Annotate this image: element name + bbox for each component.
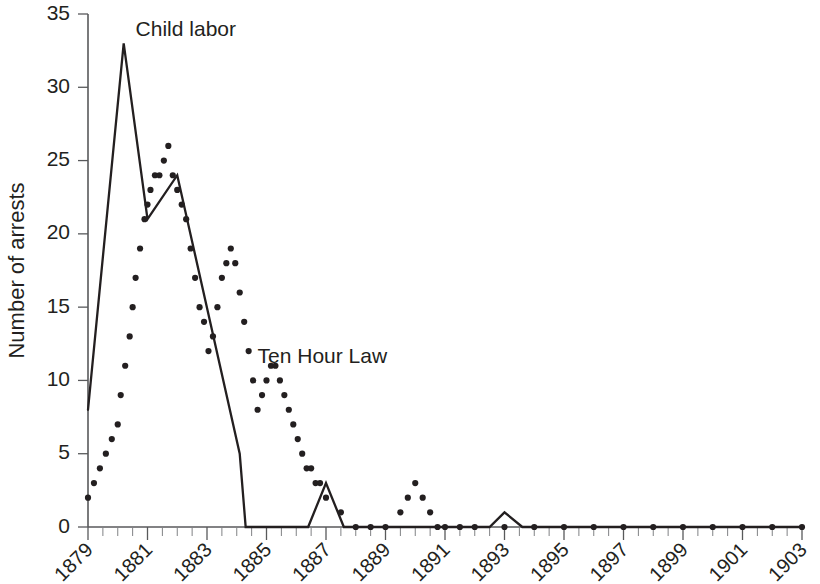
y-tick-label: 35: [47, 1, 70, 24]
series-data-dot: [277, 377, 283, 383]
series-data-dot: [165, 143, 171, 149]
series-data-dot: [420, 495, 426, 501]
series-data-dot: [710, 524, 716, 530]
series-data-dot: [501, 524, 507, 530]
series-data-dot: [286, 407, 292, 413]
y-tick-label: 15: [47, 294, 70, 317]
series-data-dot: [561, 524, 567, 530]
x-tick-label: 1893: [466, 538, 513, 584]
series-data-dot: [97, 465, 103, 471]
y-tick-label: 30: [47, 74, 70, 97]
series-data-dot: [246, 348, 252, 354]
series-data-dot: [457, 524, 463, 530]
x-tick-label: 1891: [407, 538, 454, 584]
series-data-dot: [308, 465, 314, 471]
series-data-dot: [196, 304, 202, 310]
series-data-dot: [147, 187, 153, 193]
series-data-dot: [368, 524, 374, 530]
y-tick-label: 10: [47, 367, 70, 390]
series-data-dot: [405, 495, 411, 501]
series-data-dot: [144, 201, 150, 207]
series-data-dot: [122, 363, 128, 369]
series-data-dot: [161, 157, 167, 163]
series-data-dot: [91, 480, 97, 486]
y-tick-label: 25: [47, 147, 70, 170]
x-tick-label: 1883: [169, 538, 216, 584]
series-annotation-label: Ten Hour Law: [258, 344, 388, 367]
y-axis-group: 05101520253035: [47, 1, 88, 537]
series-layer: [85, 43, 805, 530]
series-data-dot: [472, 524, 478, 530]
series-data-dot: [338, 509, 344, 515]
series-data-dot: [250, 377, 256, 383]
series-data-dot: [241, 319, 247, 325]
series-data-dot: [591, 524, 597, 530]
series-ten-hour-law: [85, 143, 805, 530]
series-data-dot: [237, 289, 243, 295]
series-data-dot: [188, 245, 194, 251]
series-data-dot: [85, 495, 91, 501]
series-data-dot: [179, 201, 185, 207]
series-data-dot: [281, 392, 287, 398]
y-tick-label: 0: [58, 514, 70, 537]
x-tick-label: 1901: [704, 538, 751, 584]
series-data-dot: [290, 421, 296, 427]
x-tick-label: 1885: [228, 538, 275, 584]
y-axis-ticks: [78, 14, 88, 527]
series-data-dot: [739, 524, 745, 530]
series-data-dot: [103, 451, 109, 457]
series-data-dot: [442, 524, 448, 530]
x-axis-group: 1879188118831885188718891891189318951897…: [50, 527, 811, 584]
x-axis-tick-labels: 1879188118831885188718891891189318951897…: [50, 538, 811, 584]
series-data-dot: [317, 480, 323, 486]
series-data-dot: [205, 348, 211, 354]
series-data-dot: [170, 172, 176, 178]
x-tick-label: 1899: [645, 538, 692, 584]
x-tick-label: 1879: [50, 538, 97, 584]
series-data-dot: [323, 495, 329, 501]
series-data-dot: [174, 187, 180, 193]
series-data-dot: [259, 392, 265, 398]
series-data-dot: [531, 524, 537, 530]
series-data-dot: [223, 260, 229, 266]
series-solid-path: [88, 43, 802, 527]
series-data-dot: [299, 451, 305, 457]
series-data-dot: [133, 275, 139, 281]
series-data-dot: [382, 524, 388, 530]
series-annotation-label: Child labor: [136, 17, 236, 40]
x-tick-label: 1887: [288, 538, 335, 584]
series-data-dot: [353, 524, 359, 530]
series-data-dot: [620, 524, 626, 530]
series-data-dot: [210, 333, 216, 339]
y-axis-title: Number of arrests: [4, 182, 29, 358]
series-data-dot: [427, 509, 433, 515]
series-data-dot: [109, 436, 115, 442]
series-data-dot: [228, 245, 234, 251]
x-tick-label: 1903: [764, 538, 811, 584]
series-data-dot: [397, 509, 403, 515]
series-data-dot: [137, 245, 143, 251]
x-tick-label: 1897: [585, 538, 632, 584]
series-child-labor: [88, 43, 802, 527]
annotation-layer: Child laborTen Hour Law: [136, 17, 388, 367]
arrests-line-chart: 05101520253035 1879188118831885188718891…: [0, 0, 820, 584]
series-data-dot: [118, 392, 124, 398]
x-tick-label: 1881: [109, 538, 156, 584]
series-data-dot: [219, 275, 225, 281]
series-data-dot: [130, 304, 136, 310]
series-data-dot: [254, 407, 260, 413]
series-data-dot: [201, 319, 207, 325]
series-data-dot: [232, 260, 238, 266]
series-data-dot: [183, 216, 189, 222]
series-data-dot: [214, 304, 220, 310]
series-data-dot: [127, 333, 133, 339]
series-data-dot: [156, 172, 162, 178]
y-axis-tick-labels: 05101520253035: [47, 1, 70, 537]
x-tick-label: 1889: [347, 538, 394, 584]
series-data-dot: [412, 480, 418, 486]
series-data-dot: [680, 524, 686, 530]
series-data-dot: [115, 421, 121, 427]
series-data-dot: [434, 524, 440, 530]
series-data-dot: [295, 436, 301, 442]
series-data-dot: [263, 377, 269, 383]
